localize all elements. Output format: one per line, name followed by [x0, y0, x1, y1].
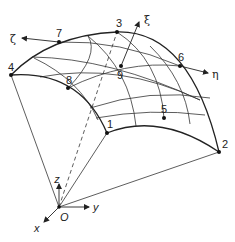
ray-to-node-4	[11, 75, 59, 207]
node-8	[66, 86, 70, 90]
z-label: z	[53, 173, 60, 185]
zeta-label: ζ	[10, 33, 16, 46]
node-2	[217, 150, 221, 154]
eta-axis	[180, 66, 208, 73]
x-label: x	[33, 222, 40, 234]
node-label-6: 6	[178, 51, 184, 63]
node-6	[178, 64, 182, 68]
grid-line	[117, 32, 164, 118]
node-1	[105, 131, 109, 135]
node-3	[115, 30, 119, 34]
node-label-5: 5	[161, 103, 167, 115]
node-label-8: 8	[66, 74, 72, 86]
x-axis	[44, 207, 59, 222]
y-label: y	[92, 201, 100, 213]
ray-to-node-1	[59, 133, 107, 207]
node-7	[57, 40, 61, 44]
node-label-3: 3	[116, 17, 122, 29]
element-boundary	[11, 32, 219, 152]
xi-axis	[121, 22, 139, 66]
axis-labels: ζ ξ η z y x O	[10, 14, 219, 234]
origin-label: O	[60, 211, 69, 223]
xi-label: ξ	[144, 14, 150, 27]
grid-line	[34, 58, 98, 120]
origin-point	[57, 205, 61, 209]
node-label-4: 4	[8, 61, 14, 73]
node-5	[162, 116, 166, 120]
edge-4-8-1	[11, 75, 107, 133]
node-labels: 1 2 3 4 5 6 7 8 9	[8, 17, 228, 150]
shell-element-diagram: 1 2 3 4 5 6 7 8 9 ζ ξ η z y x O	[0, 0, 235, 242]
node-label-7: 7	[56, 27, 62, 39]
node-label-9: 9	[117, 69, 123, 81]
node-4	[9, 73, 13, 77]
node-9	[119, 64, 123, 68]
ray-to-node-2	[59, 152, 219, 207]
zeta-axis	[22, 38, 59, 42]
origin-rays	[11, 32, 219, 207]
node-label-1: 1	[107, 118, 113, 130]
node-label-2: 2	[222, 138, 228, 150]
edge-1-5-2	[107, 126, 219, 152]
eta-label: η	[212, 68, 219, 81]
